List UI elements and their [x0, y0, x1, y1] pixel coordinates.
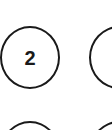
keypad-grid: 2	[0, 0, 112, 130]
keypad-key-right[interactable]	[89, 26, 112, 89]
key-label: 2	[24, 48, 35, 68]
keypad-key-bottom-right[interactable]	[89, 121, 112, 130]
keypad-key-2[interactable]: 2	[0, 26, 60, 89]
keypad-key-bottom-left[interactable]	[0, 121, 60, 130]
